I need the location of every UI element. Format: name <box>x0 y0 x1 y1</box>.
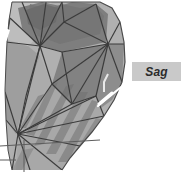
annotation-label-text: Sag <box>145 66 168 78</box>
annotation-label-box: Sag <box>132 62 181 81</box>
figure-canvas: Sag <box>0 0 189 172</box>
left-edge-notch-2 <box>0 56 5 70</box>
mesh-render <box>0 0 189 172</box>
